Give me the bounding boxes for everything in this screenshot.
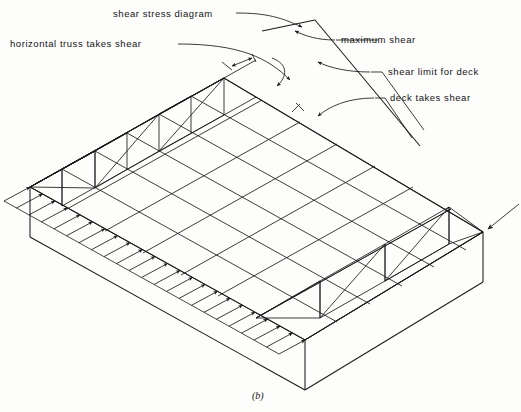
figure-canvas: shear stress diagram horizontal truss ta… xyxy=(0,0,521,412)
reaction-arrow-right xyxy=(488,204,519,229)
load-arrow xyxy=(179,284,205,298)
deck-shear-diagram xyxy=(0,0,521,412)
label-shear-limit-for-deck: shear limit for deck xyxy=(388,66,479,77)
figure-caption: (b) xyxy=(252,390,264,401)
load-arrow xyxy=(154,271,180,285)
label-maximum-shear: maximum shear xyxy=(341,34,416,45)
load-arrow xyxy=(129,257,155,271)
load-arrow xyxy=(279,340,305,354)
label-shear-stress-diagram: shear stress diagram xyxy=(113,8,213,19)
horizontal-truss-back xyxy=(30,60,256,206)
load-arrow xyxy=(92,236,118,250)
load-arrow xyxy=(4,187,30,201)
load-arrow xyxy=(192,291,218,305)
load-arrow xyxy=(29,201,55,215)
load-arrow xyxy=(217,305,243,319)
load-arrow xyxy=(242,319,268,333)
load-arrow xyxy=(42,208,68,222)
load-baseline xyxy=(4,201,279,354)
load-arrow xyxy=(142,264,168,278)
horizontal-truss-front xyxy=(256,207,483,340)
deck-slab-outline xyxy=(30,78,483,390)
label-horizontal-truss-takes-shear: horizontal truss takes shear xyxy=(10,38,142,49)
load-arrow xyxy=(79,229,105,243)
label-deck-takes-shear: deck takes shear xyxy=(390,92,471,103)
distributed-load-arrows xyxy=(4,187,305,354)
load-arrow xyxy=(104,243,130,257)
load-arrow xyxy=(267,333,293,347)
load-arrow xyxy=(67,222,93,236)
load-arrow xyxy=(204,298,230,312)
load-arrow xyxy=(54,215,80,229)
load-arrow xyxy=(167,277,193,291)
load-arrow xyxy=(229,312,255,326)
load-arrow xyxy=(117,250,143,264)
load-arrow xyxy=(254,326,280,340)
